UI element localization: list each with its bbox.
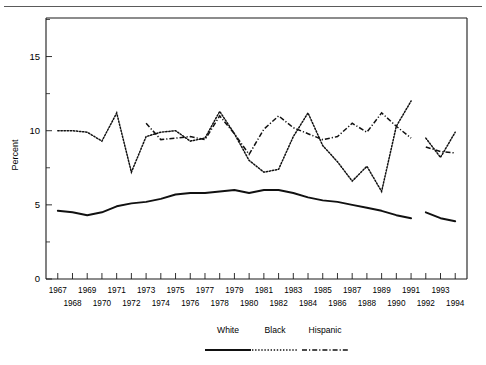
y-tick-label: 15 (29, 51, 40, 62)
y-tick-label: 0 (35, 273, 40, 284)
x-tick-label: 1989 (373, 286, 392, 295)
x-tick-label: 1988 (358, 299, 377, 308)
x-tick-label: 1977 (196, 286, 215, 295)
y-axis-title: Percent (10, 139, 20, 171)
x-tick-label: 1978 (211, 299, 230, 308)
x-tick-label: 1976 (181, 299, 200, 308)
x-tick-label: 1986 (328, 299, 347, 308)
x-tick-label: 1971 (108, 286, 127, 295)
x-tick-label: 1979 (225, 286, 244, 295)
y-axis-tick-labels: 051015 (29, 51, 40, 284)
legend-label-black: Black (264, 325, 286, 335)
series-line-hispanic (146, 113, 411, 154)
plot-frame (46, 18, 467, 279)
x-tick-label: 1983 (284, 286, 303, 295)
x-tick-label: 1993 (431, 286, 450, 295)
x-tick-label: 1990 (387, 299, 406, 308)
series-line-white (426, 212, 455, 221)
line-chart-figure: 051015 Percent 1967196919711973197519771… (0, 0, 486, 365)
x-tick-label: 1981 (255, 286, 274, 295)
chart-legend: WhiteBlackHispanic (205, 325, 348, 350)
x-tick-label: 1987 (343, 286, 362, 295)
y-axis-ticks (46, 19, 52, 279)
x-tick-label: 1975 (166, 286, 185, 295)
x-tick-label: 1991 (402, 286, 421, 295)
y-tick-label: 10 (29, 125, 40, 136)
x-axis-tick-labels-even-years: 1968197019721974197619781980198219841986… (63, 299, 464, 308)
series-line-hispanic (426, 147, 455, 153)
x-tick-label: 1968 (63, 299, 82, 308)
x-tick-label: 1980 (240, 299, 259, 308)
x-tick-label: 1970 (93, 299, 112, 308)
series-line-white (58, 190, 411, 218)
x-axis-ticks (58, 273, 455, 279)
series-line-black (426, 132, 455, 157)
y-tick-label: 5 (35, 199, 40, 210)
x-tick-label: 1973 (137, 286, 156, 295)
x-tick-label: 1985 (314, 286, 333, 295)
x-tick-label: 1994 (446, 299, 465, 308)
x-tick-label: 1969 (78, 286, 97, 295)
legend-label-hispanic: Hispanic (309, 325, 343, 335)
series-line-black (58, 101, 411, 192)
legend-label-white: White (217, 325, 239, 335)
x-tick-label: 1974 (152, 299, 171, 308)
data-series-layer (58, 101, 455, 221)
x-tick-label: 1967 (49, 286, 68, 295)
x-tick-label: 1992 (417, 299, 436, 308)
x-tick-label: 1972 (122, 299, 141, 308)
x-axis-tick-labels-odd-years: 1967196919711973197519771979198119831985… (49, 286, 450, 295)
chart-svg: 051015 Percent 1967196919711973197519771… (0, 0, 486, 365)
x-tick-label: 1982 (269, 299, 288, 308)
x-tick-label: 1984 (299, 299, 318, 308)
